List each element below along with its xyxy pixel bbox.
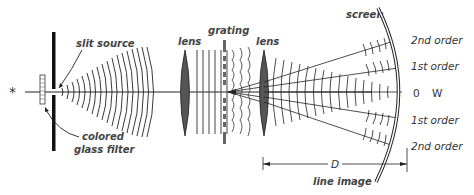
dimension-arrow-left: [263, 162, 270, 166]
filter-pointer-arrow: [46, 110, 79, 137]
order-label-w: W: [432, 87, 443, 99]
diffraction-diagram: * slit source colored glass filter: [0, 0, 474, 195]
lens2: [260, 50, 269, 136]
order-label-1st-top: 1st order: [411, 60, 459, 72]
filter-label: colored: [82, 131, 125, 142]
slit-source-label: slit source: [76, 38, 135, 49]
order-label-2nd-bottom: 2nd order: [411, 140, 463, 152]
slit-barrier-top: [52, 32, 56, 89]
glass-filter: [40, 75, 45, 104]
lens1: [181, 50, 190, 136]
order-label-1st-bottom: 1st order: [411, 114, 459, 126]
light-source-icon: *: [9, 84, 16, 100]
order-rays: [264, 42, 402, 145]
filter-label-line2: glass filter: [74, 144, 136, 155]
order-label-2nd-top: 2nd order: [411, 34, 463, 46]
lens1-label: lens: [178, 36, 201, 47]
line-image-label: line image: [313, 176, 372, 187]
grating-label: grating: [208, 25, 249, 36]
dimension-arrow-right: [400, 162, 407, 166]
distance-label: D: [331, 158, 339, 170]
order-label-zero: 0: [413, 87, 420, 99]
lens2-label: lens: [256, 36, 279, 47]
